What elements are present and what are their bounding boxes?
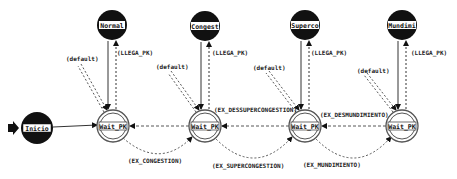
node-wait2-label: Wait_PK (191, 123, 218, 131)
node-congest-label: Congest (191, 23, 218, 31)
node-wait2: Wait_PK (189, 110, 221, 142)
label-llega-pk-4: (LLEGA_PK) (411, 49, 447, 57)
node-wait3: Wait_PK (289, 110, 321, 142)
node-superco-label: Superco (291, 22, 318, 30)
forward-edges (123, 137, 391, 158)
node-normal: Normal (97, 10, 127, 40)
node-superco: Superco (290, 10, 320, 40)
node-wait4-label: Wait_PK (388, 123, 415, 131)
node-normal-label: Normal (100, 22, 124, 30)
node-congest: Congest (190, 11, 220, 41)
label-ex-mundimiento: (EX_MUNDIMIENTO) (303, 161, 361, 169)
node-inicio-label: Inicio (25, 125, 49, 133)
node-wait4: Wait_PK (386, 110, 418, 142)
label-ex-desmundimiento: (EX_DESMUNDIMIENTO) (320, 111, 389, 119)
node-wait1-label: Wait_PK (99, 123, 126, 131)
start-arrow-icon (8, 121, 19, 135)
label-ex-supercongestion: (EX_SUPERCONGESTION) (212, 162, 284, 170)
default-loops (78, 64, 396, 112)
edge-inicio-wait1 (53, 125, 97, 127)
diagram-svg: Inicio Normal Congest Superco Mundimi Wa… (0, 0, 457, 179)
label-ex-congestion: (EX_CONGESTION) (128, 157, 182, 165)
label-default-1: (default) (66, 55, 99, 62)
label-default-3: (default) (253, 64, 286, 71)
label-ex-dessupercongestion: (EX_DESSUPERCONGESTION) (214, 106, 297, 114)
label-llega-pk-2: (LLEGA_PK) (212, 49, 248, 57)
label-default-4: (default) (357, 67, 390, 74)
node-mundimi: Mundimi (387, 10, 417, 40)
label-llega-pk-3: (LLEGA_PK) (311, 49, 347, 57)
label-default-2: (default) (156, 63, 189, 70)
state-diagram: Inicio Normal Congest Superco Mundimi Wa… (0, 0, 457, 179)
label-llega-pk-1: (LLEGA_PK) (117, 49, 153, 57)
node-inicio: Inicio (21, 112, 53, 144)
node-wait3-label: Wait_PK (291, 123, 318, 131)
node-mundimi-label: Mundimi (388, 22, 415, 30)
node-wait1: Wait_PK (97, 110, 129, 142)
